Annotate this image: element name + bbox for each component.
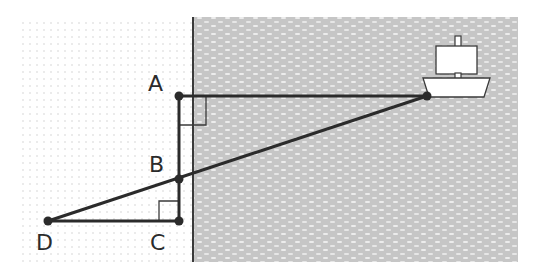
label-d: D	[36, 230, 53, 255]
point-d	[44, 217, 53, 226]
point-b	[175, 175, 184, 184]
label-b: B	[149, 152, 164, 177]
land-region	[20, 17, 193, 262]
label-a: A	[148, 71, 163, 96]
label-c: C	[150, 230, 165, 255]
point-a	[175, 92, 184, 101]
diagram-canvas: A B C D	[0, 0, 539, 280]
point-ship	[423, 92, 432, 101]
point-c	[175, 217, 184, 226]
